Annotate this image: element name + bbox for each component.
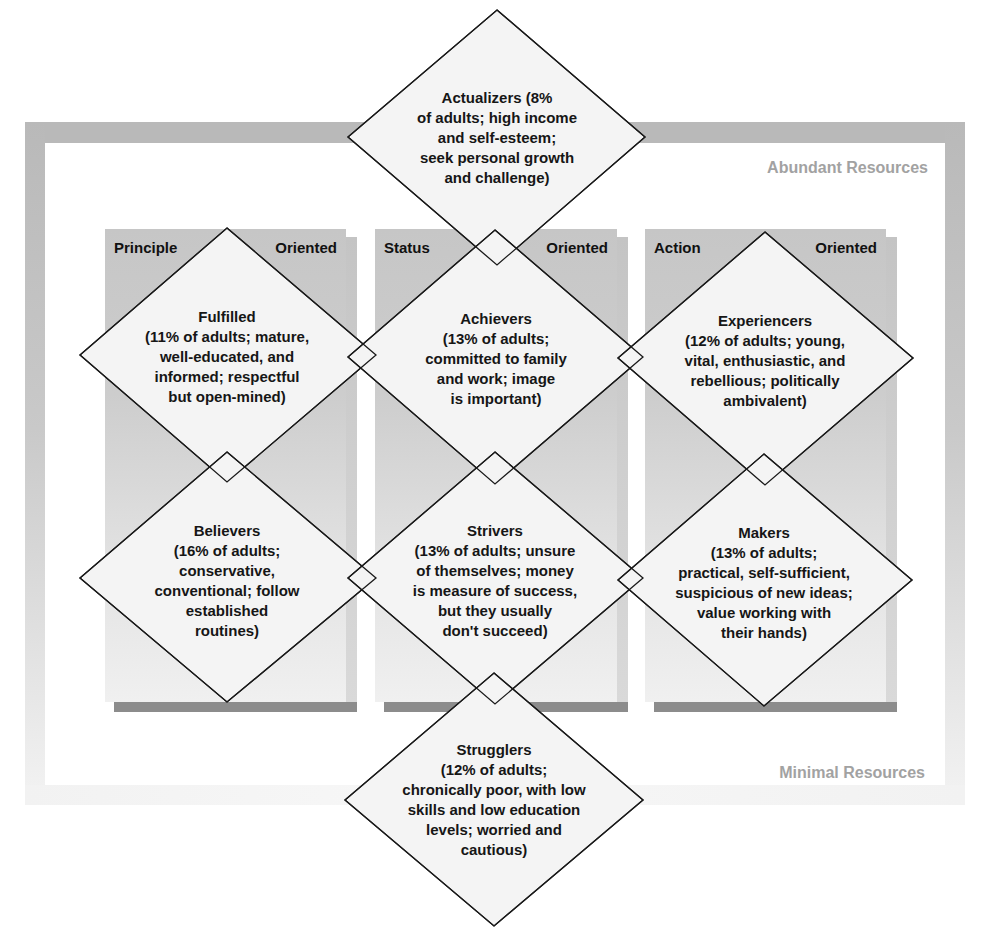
segment-line: levels; worried and	[384, 820, 604, 840]
segment-line: of themselves; money	[385, 561, 605, 581]
segment-believers: Believers (16% of adults; conservative, …	[117, 521, 337, 641]
segment-line: seek personal growth	[387, 148, 607, 168]
segment-line: cautious)	[384, 840, 604, 860]
segment-line: skills and low education	[384, 800, 604, 820]
segment-line: conservative,	[117, 561, 337, 581]
vals-diagram: Abundant Resources Minimal Resources Pri…	[0, 0, 989, 934]
segment-line: committed to family	[386, 349, 606, 369]
segment-line: Strivers	[385, 521, 605, 541]
segment-line: but open-mined)	[117, 387, 337, 407]
segment-line: conventional; follow	[117, 581, 337, 601]
segment-line: (16% of adults;	[117, 541, 337, 561]
segment-line: is measure of success,	[385, 581, 605, 601]
segment-fulfilled: Fulfilled (11% of adults; mature, well-e…	[117, 307, 337, 407]
segment-line: but they usually	[385, 601, 605, 621]
segment-strugglers: Strugglers (12% of adults; chronically p…	[384, 740, 604, 860]
segment-strivers: Strivers (13% of adults; unsure of thems…	[385, 521, 605, 641]
segment-line: informed; respectful	[117, 367, 337, 387]
segment-line: Achievers	[386, 309, 606, 329]
segment-line: (12% of adults;	[384, 760, 604, 780]
segment-line: established	[117, 601, 337, 621]
segment-line: Believers	[117, 521, 337, 541]
segment-line: rebellious; politically	[655, 371, 875, 391]
segment-line: of adults; high income	[387, 108, 607, 128]
segment-line: and self-esteem;	[387, 128, 607, 148]
segment-line: suspicious of new ideas;	[654, 583, 874, 603]
segment-line: (13% of adults;	[654, 543, 874, 563]
segment-line: is important)	[386, 389, 606, 409]
segment-experiencers: Experiencers (12% of adults; young, vita…	[655, 311, 875, 411]
segment-line: Actualizers (8%	[387, 88, 607, 108]
segment-line: chronically poor, with low	[384, 780, 604, 800]
segment-makers: Makers (13% of adults; practical, self-s…	[654, 523, 874, 643]
segment-line: Fulfilled	[117, 307, 337, 327]
segment-line: (11% of adults; mature,	[117, 327, 337, 347]
segment-line: ambivalent)	[655, 391, 875, 411]
segment-line: well-educated, and	[117, 347, 337, 367]
segment-line: (13% of adults;	[386, 329, 606, 349]
segment-line: practical, self-sufficient,	[654, 563, 874, 583]
segment-achievers: Achievers (13% of adults; committed to f…	[386, 309, 606, 409]
segment-line: and work; image	[386, 369, 606, 389]
segment-line: value working with	[654, 603, 874, 623]
segment-line: and challenge)	[387, 168, 607, 188]
segment-line: vital, enthusiastic, and	[655, 351, 875, 371]
segment-line: don't succeed)	[385, 621, 605, 641]
segment-line: routines)	[117, 621, 337, 641]
segment-line: their hands)	[654, 623, 874, 643]
segment-line: Experiencers	[655, 311, 875, 331]
segment-line: (12% of adults; young,	[655, 331, 875, 351]
segment-line: Makers	[654, 523, 874, 543]
segment-line: (13% of adults; unsure	[385, 541, 605, 561]
segment-actualizers: Actualizers (8% of adults; high income a…	[387, 88, 607, 188]
segment-line: Strugglers	[384, 740, 604, 760]
